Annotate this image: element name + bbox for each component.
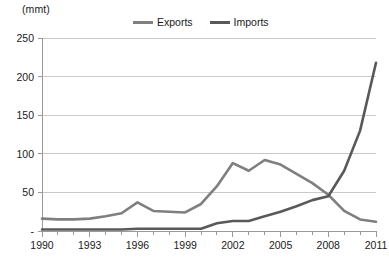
y-axis-tick-label: 150 [4,110,34,121]
x-axis-tick-label: 2005 [261,240,301,251]
x-axis-tick-label: 1990 [22,240,62,251]
x-axis-tick-label: 1993 [70,240,110,251]
plot-area [0,0,389,263]
y-axis-tick-label: 100 [4,149,34,160]
x-axis-tick-label: 2011 [356,240,389,251]
y-axis-tick-label: 200 [4,72,34,83]
x-axis-tick-label: 2002 [213,240,253,251]
x-axis-tick-label: 1999 [165,240,205,251]
y-axis-tick-label: - [4,226,34,237]
series-line-imports [42,63,376,230]
x-axis-tick-label: 1996 [117,240,157,251]
y-axis-tick-label: 50 [4,187,34,198]
x-axis-tick-label: 2008 [308,240,348,251]
y-axis-tick-label: 250 [4,33,34,44]
series-line-exports [42,160,376,222]
line-chart: (mmt) Exports Imports -50100150200250 19… [0,0,389,263]
